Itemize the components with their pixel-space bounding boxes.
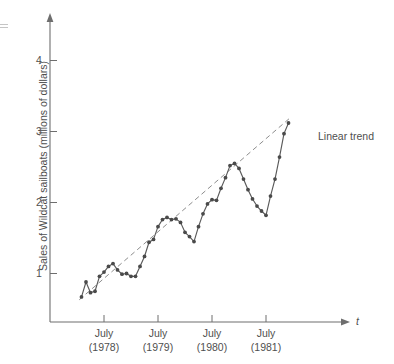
data-point-marker (120, 272, 124, 276)
data-point-marker (183, 230, 187, 234)
data-point-marker (242, 177, 246, 181)
x-tick-year-1979: (1979) (128, 340, 188, 354)
data-point-marker (264, 213, 268, 217)
data-point-marker (129, 274, 133, 278)
x-tick-month-1979: July (128, 326, 188, 340)
data-point-marker (269, 194, 273, 198)
data-point-marker (201, 212, 205, 216)
data-point-marker (287, 121, 291, 125)
data-point-marker (219, 186, 223, 190)
data-point-marker (174, 217, 178, 221)
data-point-marker (107, 265, 111, 269)
x-axis-title: t (356, 315, 359, 327)
y-axis-arrow-icon (47, 13, 54, 22)
data-point-marker (125, 272, 129, 276)
data-point-marker (170, 218, 174, 222)
data-point-marker (165, 216, 169, 220)
data-point-marker (179, 220, 183, 224)
data-point-marker (147, 240, 151, 244)
data-point-marker (246, 188, 250, 192)
x-tick-label-july-1979: July (1979) (128, 326, 188, 354)
linear-trend-label: Linear trend (318, 130, 374, 142)
sales-series-markers (80, 121, 291, 299)
chart-figure: 4 3 2 1 Sales of Wildcat sailboats (mill… (0, 0, 394, 364)
data-point-marker (206, 202, 210, 206)
data-point-marker (210, 198, 214, 202)
data-point-marker (84, 280, 88, 284)
data-point-marker (215, 198, 219, 202)
x-tick-label-july-1980: July (1980) (182, 326, 242, 354)
data-point-marker (80, 295, 84, 299)
x-tick-year-1981: (1981) (236, 340, 296, 354)
data-point-marker (143, 255, 147, 259)
x-tick-year-1978: (1978) (74, 340, 134, 354)
data-point-marker (188, 235, 192, 239)
data-point-marker (228, 164, 232, 168)
y-axis-title: Sales of Wildcat sailboats (millions of … (37, 41, 49, 291)
data-point-marker (161, 218, 165, 222)
data-point-marker (224, 176, 228, 180)
data-point-marker (197, 225, 201, 229)
data-point-marker (89, 291, 93, 295)
data-point-marker (98, 274, 102, 278)
chart-plot-area (0, 0, 394, 364)
data-point-marker (282, 132, 286, 136)
x-tick-month-1978: July (74, 326, 134, 340)
x-tick-year-1980: (1980) (182, 340, 242, 354)
data-point-marker (102, 270, 106, 274)
data-point-marker (116, 268, 120, 272)
data-point-marker (255, 204, 259, 208)
data-point-marker (237, 167, 241, 171)
data-point-marker (138, 265, 142, 269)
x-tick-label-july-1981: July (1981) (236, 326, 296, 354)
data-point-marker (233, 162, 237, 166)
data-point-marker (93, 289, 97, 293)
x-tick-month-1980: July (182, 326, 242, 340)
data-point-marker (134, 274, 138, 278)
x-axis-arrow-icon (341, 319, 350, 326)
x-tick-month-1981: July (236, 326, 296, 340)
data-point-marker (156, 225, 160, 229)
data-point-marker (111, 262, 115, 266)
data-point-marker (152, 238, 156, 242)
data-point-marker (251, 197, 255, 201)
x-tick-label-july-1978: July (1978) (74, 326, 134, 354)
data-point-marker (192, 240, 196, 244)
data-point-marker (278, 155, 282, 159)
data-point-marker (260, 209, 264, 213)
data-point-marker (273, 177, 277, 181)
